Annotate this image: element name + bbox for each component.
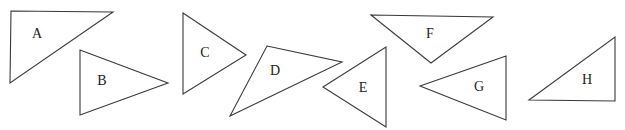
triangle-a-label: A	[32, 26, 43, 41]
triangle-d: D	[230, 46, 342, 116]
triangle-e-label: E	[359, 80, 368, 95]
triangle-h-label: H	[582, 72, 592, 87]
triangle-c-label: C	[200, 45, 209, 60]
triangle-g-shape	[420, 56, 506, 120]
triangles-diagram: A B C D E F G H	[0, 0, 625, 130]
triangle-e-shape	[323, 47, 386, 127]
triangle-h: H	[529, 37, 615, 101]
triangle-e: E	[323, 47, 386, 127]
triangle-b: B	[80, 50, 168, 115]
triangle-h-shape	[529, 37, 615, 101]
triangle-f: F	[371, 15, 493, 63]
triangle-d-label: D	[270, 63, 280, 78]
triangle-g-label: G	[474, 79, 484, 94]
diagram-svg: A B C D E F G H	[0, 0, 625, 130]
triangle-f-label: F	[426, 26, 434, 41]
triangle-d-shape	[230, 46, 342, 116]
triangle-c: C	[183, 13, 246, 94]
triangle-b-shape	[80, 50, 168, 115]
triangle-g: G	[420, 56, 506, 120]
triangle-b-label: B	[97, 73, 106, 88]
triangle-c-shape	[183, 13, 246, 94]
